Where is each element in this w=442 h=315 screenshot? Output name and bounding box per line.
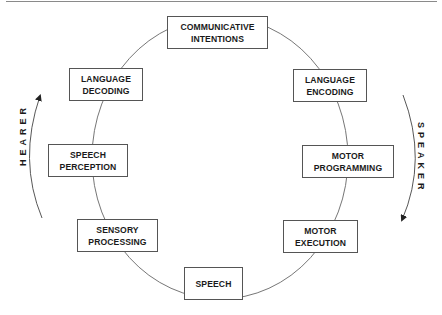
node-speech-perception: SPEECH PERCEPTION	[48, 144, 128, 177]
node-label-line: SENSORY	[96, 224, 138, 236]
speaker-label: SPEAKER	[416, 122, 426, 194]
node-label-line: SPEECH	[196, 278, 232, 290]
node-label-line: EXECUTION	[295, 237, 346, 249]
node-label-line: ENCODING	[306, 86, 353, 98]
node-language-encoding: LANGUAGE ENCODING	[293, 69, 367, 102]
node-motor-execution: MOTOR EXECUTION	[283, 220, 358, 253]
node-label-line: LANGUAGE	[305, 74, 355, 86]
node-motor-programming: MOTOR PROGRAMMING	[302, 145, 394, 178]
node-label-line: MOTOR	[332, 150, 364, 162]
node-label-line: SPEECH	[70, 149, 106, 161]
node-label-line: DECODING	[82, 85, 129, 97]
node-label-line: INTENTIONS	[191, 33, 244, 45]
node-communicative-intentions: COMMUNICATIVE INTENTIONS	[167, 16, 268, 49]
node-label-line: PROGRAMMING	[314, 162, 382, 174]
hearer-arrow	[29, 96, 42, 218]
node-label-line: LANGUAGE	[81, 73, 131, 85]
node-label-line: COMMUNICATIVE	[180, 21, 254, 33]
hearer-label: HEARER	[18, 104, 28, 166]
node-language-decoding: LANGUAGE DECODING	[69, 68, 143, 101]
node-label-line: PROCESSING	[88, 236, 146, 248]
node-label-line: PERCEPTION	[60, 161, 117, 173]
speaker-arrow	[402, 95, 415, 220]
node-label-line: MOTOR	[304, 225, 336, 237]
node-speech: SPEECH	[184, 267, 243, 300]
node-sensory-processing: SENSORY PROCESSING	[77, 219, 158, 252]
